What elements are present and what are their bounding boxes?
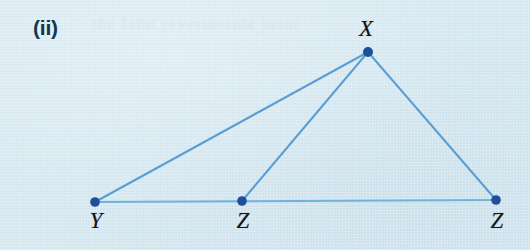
vertex-label-X: X (359, 16, 373, 42)
vertex-dot-Y (90, 197, 100, 207)
segment-Y-Z2-base (95, 200, 496, 202)
vertex-dot-X (363, 47, 373, 57)
part-label-ii: (ii) (33, 16, 58, 40)
segment-Z1-X (242, 52, 368, 201)
vertex-label-Y: Y (90, 208, 103, 234)
vertex-label-Z-right: Z (491, 208, 504, 234)
figure-container: the faint reverse-side print (ii) X Y Z … (0, 0, 530, 250)
segment-X-Z2 (368, 52, 496, 200)
vertex-label-Z-middle: Z (237, 208, 250, 234)
triangle-diagram-svg (0, 0, 530, 250)
vertex-dot-Z1 (237, 196, 247, 206)
vertex-dot-Z2 (491, 195, 501, 205)
segment-Y-X (95, 52, 368, 202)
